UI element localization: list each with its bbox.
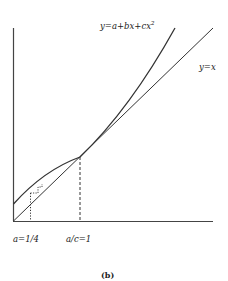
identity-line (14, 28, 214, 221)
line-label: y=x (198, 62, 216, 72)
quadratic-curve (14, 28, 176, 204)
figure-caption: (b) (101, 270, 114, 280)
x-tick-label-a: a=1/4 (13, 234, 39, 244)
diagram-figure: y=a+bx+cx2 y=x a=1/4 a/c=1 (b) (0, 0, 228, 281)
curve-label: y=a+bx+cx2 (99, 20, 155, 31)
x-tick-label-ac: a/c=1 (66, 234, 91, 244)
